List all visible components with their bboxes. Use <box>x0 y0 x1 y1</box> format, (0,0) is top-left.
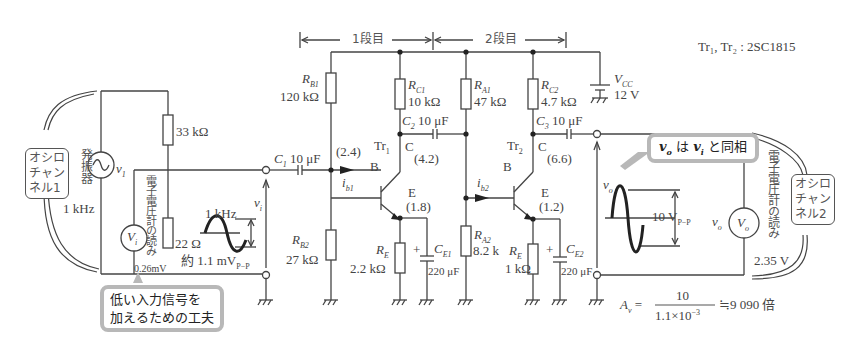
ce1-value: 220 μF <box>428 266 459 277</box>
tr2-name: Tr <box>507 138 519 153</box>
input-tip-callout: 低い入力信号を 加えるための工夫 <box>100 285 224 332</box>
output-meter-reading-label: 電子電圧計の読み <box>766 150 778 250</box>
input-wave-freq: 1 kHz <box>205 207 236 220</box>
tr1-collector-voltage: (4.2) <box>414 152 439 165</box>
rc1-name: R <box>408 77 416 92</box>
tr1-base: B <box>370 160 379 173</box>
rb2-value: 27 kΩ <box>286 253 318 266</box>
gain-denominator: 1.1×10 <box>655 308 692 323</box>
input-meter-reading: 0.26mV <box>134 264 167 274</box>
vi-meter-label: V <box>127 229 135 244</box>
rc1-value: 10 kΩ <box>408 95 440 108</box>
vo-meter-label: V <box>737 215 745 230</box>
vcc-value: 12 V <box>614 88 639 101</box>
ce2-value: 220 μF <box>561 266 592 277</box>
c2-value: 10 μF <box>418 113 448 128</box>
oscilloscope-channel-1: オシロ チャン ネル1 <box>25 148 69 199</box>
tr2-collector: C <box>538 140 547 153</box>
gain-lhs: A <box>620 297 628 312</box>
oscillator-freq: 1 kHz <box>63 202 94 215</box>
tr1-name: Tr <box>374 138 386 153</box>
oscillator-label: 発振器 <box>79 148 91 184</box>
re1-name: R <box>376 242 384 257</box>
transistor-note: Tr₁, Tr₂ : 2SC1815 <box>698 40 795 53</box>
c1-name: C <box>274 151 283 166</box>
ra1-value: 47 kΩ <box>474 95 506 108</box>
c1-value: 10 μF <box>290 151 320 166</box>
ra2-name: R <box>474 227 482 242</box>
tr2-emitter-voltage: (1.2) <box>539 200 564 213</box>
gain-numerator: 10 <box>676 289 689 302</box>
tr1-base-voltage: (2.4) <box>336 145 361 158</box>
re2-value: 1 kΩ <box>505 262 531 275</box>
stage2-label: 2段目 <box>485 33 517 45</box>
input-wave-amplitude: 約 1.1 mV <box>181 253 236 268</box>
re1-value: 2.2 kΩ <box>350 262 386 275</box>
rb1-name: R <box>302 71 310 86</box>
phase-callout: vo は vi と同相 <box>647 133 759 163</box>
r22-value: 22 Ω <box>175 237 201 250</box>
stage1-label: 1段目 <box>352 33 384 45</box>
ra2-value: 8.2 k <box>473 244 499 257</box>
oscilloscope-channel-2: オシロ チャン ネル2 <box>791 174 835 225</box>
tr2-base: B <box>503 160 512 173</box>
vcc-name: V <box>614 71 622 86</box>
ra1-name: R <box>474 77 482 92</box>
c3-value: 10 μF <box>552 113 582 128</box>
ce1-name: C <box>434 241 443 256</box>
tr1-emitter-voltage: (1.8) <box>406 200 431 213</box>
ce2-plus: + <box>546 243 553 256</box>
ce1-plus: + <box>413 243 420 256</box>
rb2-name: R <box>292 232 300 247</box>
tr1-collector: C <box>405 140 414 153</box>
gain-result: ≒9 090 倍 <box>719 298 775 311</box>
output-wave-amplitude: 10 V <box>652 209 677 224</box>
tr1-emitter: E <box>408 186 416 199</box>
rb1-value: 120 kΩ <box>280 90 319 103</box>
c2-name: C <box>402 113 411 128</box>
re2-name: R <box>509 243 517 258</box>
output-meter-reading: 2.35 V <box>754 254 789 267</box>
rc2-value: 4.7 kΩ <box>541 95 577 108</box>
rc2-name: R <box>541 77 549 92</box>
input-meter-reading-label: 電子電圧計の読み <box>145 175 156 265</box>
r33k-value: 33 kΩ <box>176 125 208 138</box>
tr2-emitter: E <box>541 186 549 199</box>
c3-name: C <box>536 113 545 128</box>
ce2-name: C <box>566 241 575 256</box>
tr2-collector-voltage: (6.6) <box>547 152 572 165</box>
